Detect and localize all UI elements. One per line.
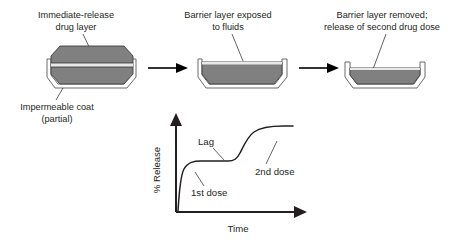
stage-1-caption-line-1: Immediate-release	[38, 10, 114, 20]
chart-annotation-second-dose: 2nd dose	[255, 166, 294, 177]
stage-2-caption-line-1: Barrier layer exposed	[184, 10, 271, 20]
arrow-1-group	[148, 63, 188, 73]
arrow-1-head-icon	[176, 63, 188, 73]
stage-2-group: Barrier layer exposed to fluids	[184, 10, 287, 88]
chart-y-axis-arrow-icon	[170, 113, 182, 126]
arrow-2-head-icon	[327, 63, 339, 73]
stage-2-barrier-layer-core	[202, 62, 282, 84]
chart-x-axis-label: Time	[228, 223, 249, 234]
stage-3-caption-line-2: release of second drug dose	[324, 22, 440, 32]
stage-2-caption-line-2: to fluids	[212, 22, 244, 32]
stage-1-leader-line-bottom	[56, 88, 63, 100]
stage-3-leader-line	[372, 34, 386, 72]
stage-1-secondary-caption-line-1: Impermeable coat	[20, 102, 94, 112]
chart-annotation-first-dose: 1st dose	[191, 187, 227, 198]
stage-1-group: Immediate-release drug layer Impermeable…	[20, 10, 136, 124]
chart-y-axis-label: % Release	[151, 147, 162, 193]
stage-2-leader-line	[232, 34, 243, 61]
stage-3-core-top-surface	[350, 68, 420, 70]
chart-x-axis-arrow-icon	[294, 206, 307, 218]
stage-1-caption-line-2: drug layer	[56, 22, 97, 32]
stage-2-barrier-top-surface	[202, 62, 282, 65]
diagram-canvas: Immediate-release drug layer Impermeable…	[0, 0, 454, 242]
stage-3-second-dose-core	[350, 68, 420, 84]
stage-3-caption-line-1: Barrier layer removed;	[337, 10, 428, 20]
chart-annotation-lag: Lag	[198, 136, 214, 147]
chart-first-dose-leader	[195, 172, 204, 186]
release-profile-chart: % Release Time 1st dose Lag 2nd dose	[151, 113, 307, 234]
stage-1-barrier-layer-stripe	[51, 63, 133, 67]
arrow-2-group	[299, 63, 339, 73]
pulsatile-release-diagram: Immediate-release drug layer Impermeable…	[0, 0, 454, 242]
chart-lag-leader	[213, 148, 224, 160]
stage-3-group: Barrier layer removed; release of second…	[324, 10, 440, 88]
chart-second-dose-leader	[266, 141, 277, 164]
stage-1-secondary-caption-line-2: (partial)	[41, 114, 72, 124]
